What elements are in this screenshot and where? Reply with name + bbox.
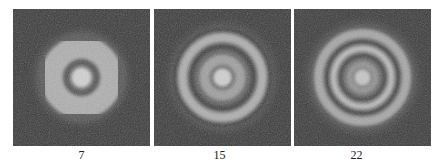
- ring-image-panel-2: [154, 9, 291, 146]
- panel-label-2: 15: [151, 148, 288, 162]
- panel-label-3: 22: [288, 148, 425, 162]
- ring-image-panel-1: [13, 9, 150, 146]
- ring-image-panel-3: [294, 9, 431, 146]
- panel-label-1: 7: [13, 148, 150, 162]
